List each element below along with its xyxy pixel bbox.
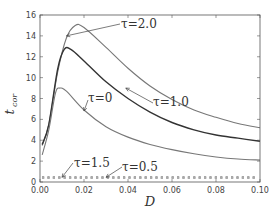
y-tick-label: 16 — [26, 11, 36, 20]
y-tick-label: 12 — [26, 53, 36, 62]
x-tick-label: 0.10 — [251, 186, 269, 195]
y-axis-label: t cor — [2, 93, 19, 115]
series-line — [42, 47, 260, 144]
annotation-label: τ=1.5 — [74, 156, 110, 170]
svg-text:cor: cor — [10, 93, 19, 107]
x-tick-label: 0.02 — [75, 186, 93, 195]
annotation-label: τ=0.5 — [122, 160, 158, 174]
series-line — [42, 24, 260, 145]
x-axis-label: D — [144, 194, 156, 209]
annotation-label: τ=2.0 — [121, 17, 157, 31]
y-tick-label: 8 — [31, 95, 36, 104]
annotation-arrow — [62, 163, 73, 177]
y-tick-label: 0 — [31, 178, 36, 187]
arrowhead-icon — [106, 174, 110, 177]
annotation-arrow — [126, 88, 153, 103]
annotation-label: τ=0 — [88, 91, 112, 105]
series-line — [42, 88, 260, 160]
x-tick-label: 0.08 — [207, 186, 225, 195]
y-tick-label: 10 — [26, 74, 36, 83]
svg-text:t: t — [2, 109, 17, 115]
y-tick-label: 14 — [26, 32, 36, 41]
x-tick-label: 0.04 — [119, 186, 137, 195]
y-tick-label: 4 — [31, 136, 36, 145]
y-tick-label: 2 — [31, 157, 36, 166]
x-tick-label: 0.06 — [163, 186, 181, 195]
x-tick-label: 0.00 — [31, 186, 49, 195]
line-chart: 0.000.020.040.060.080.100246810121416 τ=… — [0, 0, 280, 217]
annotation-label: τ=1.0 — [153, 95, 189, 109]
y-tick-label: 6 — [31, 115, 36, 124]
